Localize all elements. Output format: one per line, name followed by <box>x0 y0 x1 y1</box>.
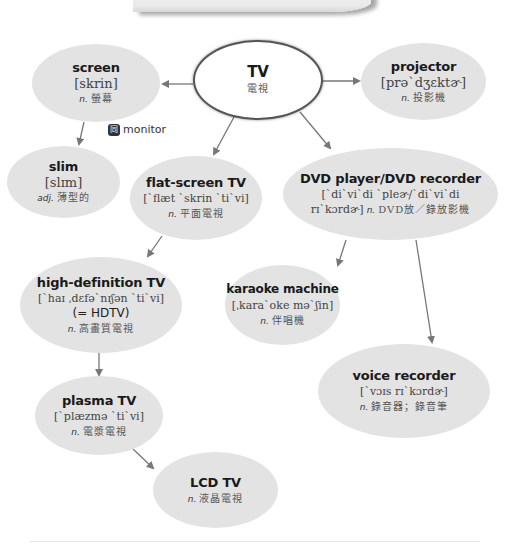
edge-dvd-voice <box>416 240 432 342</box>
edge-dvd-karaoke <box>338 240 346 265</box>
definition-line: n.液晶電視 <box>188 491 244 507</box>
part-of-speech: n. <box>401 93 410 103</box>
phonetic: [ˋplæzmə ˋtiˋvi] <box>54 409 144 424</box>
definition-line: rɪˋkɔrdɚ]n.DVD放／錄放影機 <box>311 202 471 218</box>
definition-line: n.高畫質電視 <box>68 321 135 337</box>
phonetic-line-2: rɪˋkɔrdɚ] <box>311 203 364 216</box>
phonetic: [ˋflæt ˋskrin ˋtiˋvi] <box>143 191 249 206</box>
definition-line: n.投影機 <box>401 90 446 106</box>
phonetic: [ˋhaɪ ˌdɛfəˋnɪʃən ˋtiˋvi] <box>38 291 164 306</box>
part-of-speech: n. <box>79 94 88 104</box>
term: flat-screen TV <box>146 174 246 191</box>
term: DVD player/DVD recorder <box>300 170 481 187</box>
definition-line: adj.薄型的 <box>37 190 90 206</box>
phonetic-line-1: [ˋdiˋviˋdi ˋpleɚ/ˋdiˋviˋdi <box>321 187 459 202</box>
phonetic: [ˋvɔɪs rɪˋkɔrdɚ] <box>360 384 448 399</box>
part-of-speech: n. <box>188 494 197 504</box>
definition: 薄型的 <box>57 192 90 203</box>
node-dvd-player-recorder: DVD player/DVD recorder [ˋdiˋviˋdi ˋpleɚ… <box>283 148 498 240</box>
term: slim <box>49 158 78 175</box>
definition-line: n.電漿電視 <box>71 424 127 440</box>
definition: 螢幕 <box>91 93 113 104</box>
part-of-speech: n. <box>260 316 269 326</box>
synonym-icon: 同 <box>108 124 120 136</box>
phonetic: [slɪm] <box>45 175 82 190</box>
part-of-speech: n. <box>360 402 369 412</box>
edge-flatscreen-hdtv <box>148 236 162 256</box>
node-projector: projector [prəˋdʒɛktɚ] n.投影機 <box>361 43 486 120</box>
definition: 電視 <box>247 81 269 96</box>
part-of-speech: n. <box>68 324 77 334</box>
term: voice recorder <box>353 367 456 384</box>
synonym-note: 同 monitor <box>108 123 166 136</box>
phonetic: [skrin] <box>74 76 117 91</box>
edge-plasma-lcd <box>133 449 153 468</box>
node-plasma-tv: plasma TV [ˋplæzmə ˋtiˋvi] n.電漿電視 <box>35 376 163 455</box>
term: TV <box>247 64 268 81</box>
edge-tv-flatscreen <box>214 117 234 154</box>
part-of-speech: n. <box>367 205 376 215</box>
edge-tv-dvd <box>300 112 330 148</box>
part-of-speech: adj. <box>37 193 54 203</box>
term: high-definition TV <box>37 274 165 291</box>
term: projector <box>391 58 456 75</box>
part-of-speech: n. <box>71 427 80 437</box>
node-flat-screen-tv: flat-screen TV [ˋflæt ˋskrin ˋtiˋvi] n.平… <box>130 156 262 240</box>
node-screen: screen [skrin] n.螢幕 <box>32 44 160 122</box>
definition-line: n.伴唱機 <box>260 313 305 329</box>
definition-line: n.錄音器；錄音筆 <box>360 399 449 415</box>
node-karaoke-machine: karaoke machine [ˌkaraˋoke məˋʃin] n.伴唱機 <box>225 265 340 345</box>
definition-line: n.螢幕 <box>79 91 113 107</box>
definition: 電漿電視 <box>83 426 127 437</box>
node-slim: slim [slɪm] adj.薄型的 <box>7 146 120 218</box>
definition: DVD放／錄放影機 <box>378 204 470 215</box>
term: plasma TV <box>62 392 136 409</box>
term: screen <box>72 59 120 76</box>
node-high-definition-tv: high-definition TV [ˋhaɪ ˌdɛfəˋnɪʃən ˋti… <box>20 257 182 353</box>
definition: 平面電視 <box>180 208 224 219</box>
definition: 錄音器；錄音筆 <box>371 401 448 412</box>
bottom-divider <box>30 541 480 542</box>
synonym-word: monitor <box>123 123 166 136</box>
term: LCD TV <box>190 474 241 491</box>
abbreviation: (= HDTV) <box>72 306 129 321</box>
definition: 投影機 <box>413 92 446 103</box>
node-voice-recorder: voice recorder [ˋvɔɪs rɪˋkɔrdɚ] n.錄音器；錄音… <box>318 344 490 438</box>
phonetic: [prəˋdʒɛktɚ] <box>381 75 466 90</box>
definition-line: n.平面電視 <box>168 206 224 222</box>
node-lcd-tv: LCD TV n.液晶電視 <box>153 452 278 528</box>
edge-screen-slim <box>79 122 84 144</box>
term: karaoke machine <box>226 281 338 298</box>
definition: 伴唱機 <box>272 315 305 326</box>
phonetic: [ˌkaraˋoke məˋʃin] <box>232 298 333 313</box>
part-of-speech: n. <box>168 209 177 219</box>
definition: 液晶電視 <box>199 493 243 504</box>
node-tv: TV 電視 <box>193 40 323 120</box>
definition: 高畫質電視 <box>79 323 134 334</box>
